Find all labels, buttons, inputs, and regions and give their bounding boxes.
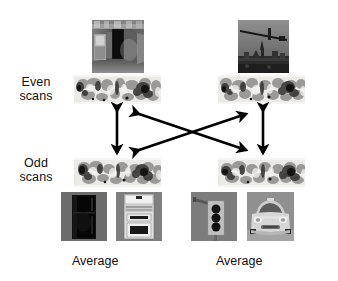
average-label-left: Average: [72, 254, 118, 268]
brain-activation-strip: [218, 158, 305, 187]
cross-category-arrow-b: [139, 114, 246, 150]
brain-activation-strip: [218, 75, 305, 104]
brain-activation-graphic: [218, 75, 305, 104]
row-label-odd-line2: scans: [8, 171, 64, 185]
average-label-right: Average: [216, 254, 262, 268]
brain-activation-strip: [74, 158, 161, 187]
brain-activation-graphic: [218, 158, 305, 187]
figure-canvas: Even scans Odd scans: [0, 0, 338, 281]
row-label-even-line2: scans: [8, 90, 64, 104]
car-photo: [247, 192, 294, 241]
brain-activation-strip: [74, 75, 161, 104]
brain-activation-graphic: [74, 158, 161, 187]
car-graphic: [247, 192, 294, 241]
indoor-scene-graphic: [92, 20, 144, 73]
traffic-light-graphic: [191, 192, 237, 241]
cross-category-arrow-a: [139, 114, 246, 150]
outdoor-scene-graphic: [238, 20, 289, 73]
stove-graphic: [116, 192, 162, 241]
traffic-light-photo: [191, 192, 237, 241]
row-label-even-line1: Even: [22, 75, 51, 89]
refrigerator-photo: [61, 192, 107, 241]
row-label-odd-line1: Odd: [24, 156, 48, 170]
indoor-scene-photo: [92, 20, 144, 73]
row-label-even-scans: Even scans: [8, 76, 64, 103]
outdoor-scene-photo: [238, 20, 289, 73]
stove-photo: [116, 192, 162, 241]
brain-activation-graphic: [74, 75, 161, 104]
refrigerator-graphic: [61, 192, 107, 241]
row-label-odd-scans: Odd scans: [8, 157, 64, 184]
